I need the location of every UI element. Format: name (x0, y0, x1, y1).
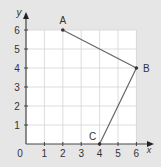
y-tick-label: 5 (14, 44, 20, 55)
x-tick-label: 2 (60, 148, 66, 159)
x-tick-label: 5 (115, 148, 121, 159)
x-tick-label: 4 (97, 148, 103, 159)
origin-label: 0 (17, 148, 23, 159)
y-tick-label: 1 (14, 120, 20, 131)
point-b (135, 66, 139, 70)
x-tick-label: 3 (78, 148, 84, 159)
x-tick-label: 1 (42, 148, 48, 159)
point-c (98, 142, 102, 146)
y-tick-label: 6 (14, 25, 20, 36)
point-label-a: A (59, 15, 66, 26)
y-tick-label: 4 (14, 63, 20, 74)
x-tick-label: 6 (134, 148, 140, 159)
x-axis-label: x (146, 145, 152, 155)
y-tick-label: 3 (14, 82, 20, 93)
y-tick-label: 2 (14, 101, 20, 112)
y-axis-label: y (16, 7, 23, 18)
point-a (61, 28, 65, 32)
point-label-b: B (143, 63, 150, 74)
y-axis-arrow-icon (23, 12, 29, 19)
point-label-c: C (89, 131, 96, 142)
coordinate-plot: 1234561234560xy ABC (0, 0, 161, 167)
